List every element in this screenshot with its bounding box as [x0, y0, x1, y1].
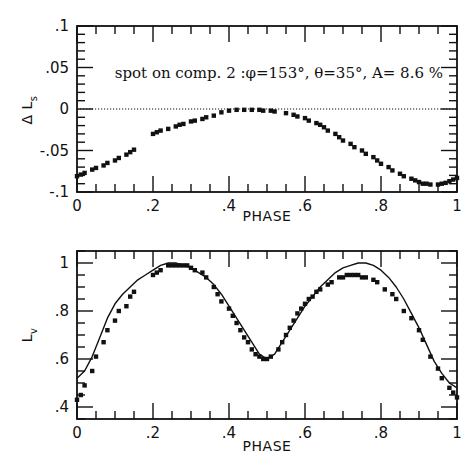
data-point — [402, 174, 406, 178]
data-point — [345, 273, 349, 277]
data-point — [212, 113, 216, 117]
y-tick-label: .6 — [55, 350, 69, 368]
data-point — [348, 142, 352, 146]
bottom-y-axis-title-sub: v — [28, 328, 39, 334]
y-tick-label: 1 — [59, 254, 69, 272]
data-point — [215, 292, 219, 296]
data-point — [155, 270, 159, 274]
data-point — [451, 390, 455, 394]
delta-ls-residual-panel: 0.2.4.6.81.1.050-.05-.1 — [40, 17, 462, 215]
data-point — [151, 273, 155, 277]
data-point — [337, 275, 341, 279]
data-point — [101, 340, 105, 344]
data-point — [250, 108, 254, 112]
data-point — [189, 119, 193, 123]
data-point — [219, 110, 223, 114]
data-point — [257, 108, 261, 112]
data-point — [333, 132, 337, 136]
data-point — [75, 398, 79, 402]
data-point — [360, 148, 364, 152]
data-point — [352, 273, 356, 277]
x-tick-label: .4 — [222, 197, 236, 215]
data-point — [375, 158, 379, 162]
data-point — [326, 128, 330, 132]
data-point — [261, 108, 265, 112]
x-tick-label: .2 — [146, 197, 160, 215]
data-point — [314, 121, 318, 125]
data-point — [242, 335, 246, 339]
data-point — [394, 297, 398, 301]
data-point — [337, 135, 341, 139]
data-point — [326, 282, 330, 286]
bottom-y-axis-title-main: L — [19, 334, 35, 342]
top-y-axis-title-sub: s — [28, 95, 39, 101]
data-point — [158, 128, 162, 132]
y-tick-label: .8 — [55, 302, 69, 320]
data-point — [124, 304, 128, 308]
data-point — [117, 156, 121, 160]
data-point — [101, 163, 105, 167]
x-tick-label: .8 — [374, 424, 388, 442]
data-point — [158, 268, 162, 272]
data-point — [204, 115, 208, 119]
data-point — [105, 161, 109, 165]
data-point — [409, 177, 413, 181]
data-point — [364, 275, 368, 279]
data-point — [383, 287, 387, 291]
data-point — [390, 168, 394, 172]
top-y-axis-title-main: Δ L — [19, 101, 35, 124]
data-point — [284, 111, 288, 115]
data-point — [82, 383, 86, 387]
y-tick-label: .05 — [45, 59, 69, 77]
data-point — [424, 182, 428, 186]
x-tick-label: 1 — [452, 197, 462, 215]
x-tick-label: .2 — [146, 424, 160, 442]
x-tick-label: .6 — [298, 197, 312, 215]
data-point — [128, 150, 132, 154]
x-tick-label: .8 — [374, 197, 388, 215]
data-point — [443, 181, 447, 185]
data-point — [79, 393, 83, 397]
bottom-x-axis-title: PHASE — [243, 438, 292, 454]
x-tick-label: 1 — [452, 424, 462, 442]
data-point — [234, 108, 238, 112]
y-tick-label: .1 — [55, 17, 69, 35]
data-point — [322, 125, 326, 129]
bottom-y-axis-title: Lv — [19, 328, 39, 343]
data-point — [341, 275, 345, 279]
data-point — [166, 127, 170, 131]
svg-text:Lv: Lv — [19, 328, 39, 343]
data-point — [174, 124, 178, 128]
data-point — [132, 147, 136, 151]
data-point — [364, 152, 368, 156]
data-point — [250, 347, 254, 351]
data-point — [371, 155, 375, 159]
x-tick-label: .4 — [222, 424, 236, 442]
data-point — [200, 117, 204, 121]
data-point — [238, 328, 242, 332]
data-point — [90, 369, 94, 373]
data-point — [375, 280, 379, 284]
data-point — [253, 352, 257, 356]
data-point — [451, 177, 455, 181]
data-point — [447, 179, 451, 183]
data-point — [341, 138, 345, 142]
data-point — [291, 113, 295, 117]
data-point — [94, 354, 98, 358]
data-point — [227, 108, 231, 112]
data-point — [113, 318, 117, 322]
data-point — [269, 108, 273, 112]
data-point — [295, 114, 299, 118]
data-point — [82, 171, 86, 175]
data-point — [379, 162, 383, 166]
data-point — [117, 309, 121, 313]
data-point — [413, 178, 417, 182]
data-point — [447, 386, 451, 390]
data-point — [440, 376, 444, 380]
data-point — [105, 328, 109, 332]
data-point — [421, 182, 425, 186]
data-point — [303, 116, 307, 120]
data-point — [181, 122, 185, 126]
data-point — [329, 280, 333, 284]
y-tick-label: -.05 — [40, 142, 69, 160]
